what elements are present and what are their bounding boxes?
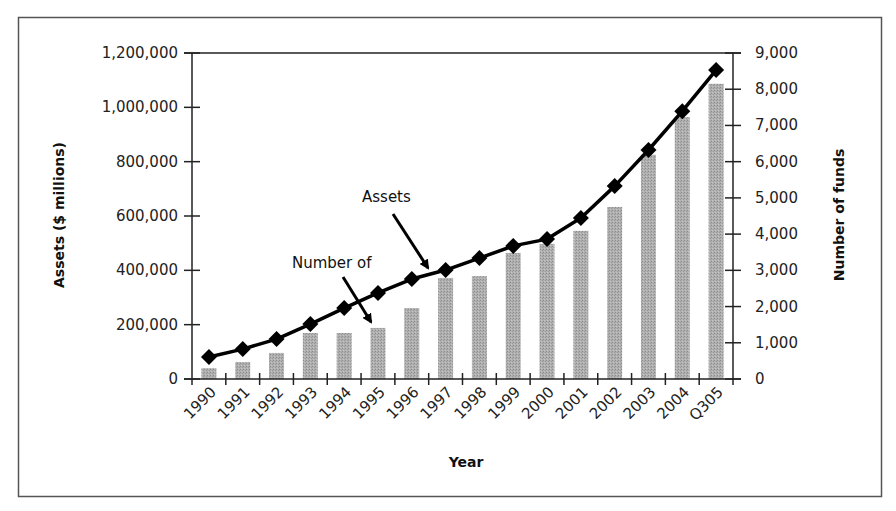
x-tick-label: 1997	[417, 383, 457, 423]
annotation-number-of: Number of	[292, 254, 372, 272]
diamond-marker-icon	[302, 316, 318, 332]
x-axis-title: Year	[448, 454, 484, 470]
y-left-tick-label: 0	[168, 370, 178, 388]
diamond-marker-icon	[201, 349, 217, 365]
bar-1991	[235, 362, 250, 379]
x-tick-label: 1998	[451, 383, 491, 423]
y-left-tick-label: 600,000	[116, 207, 178, 225]
x-tick-label: 1993	[281, 383, 321, 423]
x-tick-label: 2001	[552, 383, 592, 423]
x-tick-label: 1994	[315, 383, 355, 423]
assets-polyline	[209, 70, 716, 357]
chart-frame	[19, 18, 882, 497]
y-right-tick-label: 2,000	[755, 298, 798, 316]
y-right-tick-label: 9,000	[755, 44, 798, 62]
bar-1993	[303, 333, 318, 379]
x-tick-label: 1996	[383, 383, 423, 423]
bar-1996	[404, 308, 419, 379]
y-left-tick-label: 800,000	[116, 153, 178, 171]
y-right-tick-label: 8,000	[755, 80, 798, 98]
y-right-tick-label: 5,000	[755, 189, 798, 207]
y-right-tick-label: 7,000	[755, 116, 798, 134]
y-left-tick-label: 400,000	[116, 261, 178, 279]
x-tick-label: 2003	[620, 383, 660, 423]
y-right-tick-label: 0	[755, 370, 765, 388]
x-tick-label: 2004	[653, 383, 693, 423]
y-left-tick-label: 1,200,000	[102, 44, 178, 62]
y-axis-right-title: Number of funds	[831, 149, 847, 282]
x-tick-label: 2000	[518, 383, 558, 423]
y-right-tick-label: 6,000	[755, 153, 798, 171]
annotation-assets-arrow	[393, 214, 428, 268]
diamond-marker-icon	[438, 262, 454, 278]
bar-1997	[438, 278, 453, 379]
y-right-tick-label: 1,000	[755, 334, 798, 352]
y-right-tick-label: 3,000	[755, 261, 798, 279]
bar-1999	[506, 253, 521, 379]
bar-1992	[269, 353, 284, 379]
chart-canvas: 0200,000400,000600,000800,0001,000,0001,…	[0, 0, 896, 511]
x-tick-label: 1995	[349, 383, 389, 423]
diamond-marker-icon	[370, 285, 386, 301]
y-axis-left-title: Assets ($ millions)	[51, 142, 67, 288]
bar-Q305	[709, 84, 724, 379]
diamond-marker-icon	[269, 331, 285, 347]
bar-2004	[675, 117, 690, 379]
diamond-marker-icon	[505, 238, 521, 254]
axes	[184, 53, 741, 385]
x-tick-label: 1991	[214, 383, 254, 423]
y-left-tick-label: 200,000	[116, 316, 178, 334]
x-tick-label: 1990	[180, 383, 220, 423]
x-tick-label: Q305	[686, 383, 727, 424]
x-tick-label: 1999	[484, 383, 524, 423]
bar-2000	[540, 244, 555, 379]
y-left-tick-label: 1,000,000	[102, 98, 178, 116]
bar-1990	[201, 368, 216, 379]
bar-2003	[641, 155, 656, 379]
bar-1998	[472, 276, 487, 379]
y-right-tick-label: 4,000	[755, 225, 798, 243]
diamond-marker-icon	[336, 300, 352, 316]
x-tick-label: 2002	[586, 383, 626, 423]
bar-2002	[607, 207, 622, 379]
diamond-marker-icon	[235, 341, 251, 357]
bar-1994	[337, 333, 352, 379]
bar-2001	[573, 231, 588, 379]
diamond-marker-icon	[404, 271, 420, 287]
annotation-assets: Assets	[362, 188, 411, 206]
x-tick-label: 1992	[248, 383, 288, 423]
bar-1995	[370, 328, 385, 379]
chart: 0200,000400,000600,000800,0001,000,0001,…	[0, 0, 896, 511]
diamond-marker-icon	[471, 250, 487, 266]
